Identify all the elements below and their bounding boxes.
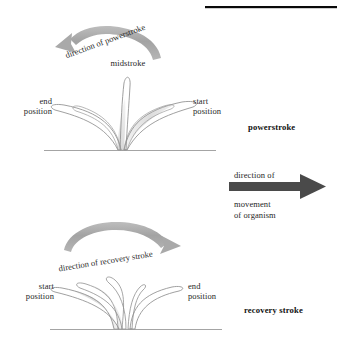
powerstroke-arc-label-text: direction of powerstroke <box>64 22 147 60</box>
organism-direction-label-line2: movement <box>234 199 271 209</box>
recovery-arc-label: direction of recovery stroke <box>58 248 228 278</box>
powerstroke-arc-label: direction of powerstroke <box>62 22 202 56</box>
recovery-cilium-third <box>106 277 126 329</box>
recovery-panel-title: recovery stroke <box>244 305 303 315</box>
recovery-cilium-start <box>51 287 119 329</box>
organism-direction-label-line3: of organism <box>234 210 276 220</box>
powerstroke-end-position-label: end position <box>4 96 52 116</box>
powerstroke-panel-title: powerstroke <box>248 122 295 132</box>
powerstroke-end-position-line1: end <box>39 96 52 106</box>
recovery-start-position-label: start position <box>2 281 54 301</box>
powerstroke-cilia-group <box>44 77 216 150</box>
powerstroke-start-position-label: start position <box>193 96 245 116</box>
powerstroke-cilium-start <box>124 101 196 150</box>
organism-direction-label-line1: direction of <box>234 170 275 180</box>
recovery-arc-label-text: direction of recovery stroke <box>58 249 154 274</box>
recovery-end-position-line1: end <box>188 281 201 291</box>
cilia-beat-cycle-figure: direction of powerstroke midstroke end p… <box>0 0 337 343</box>
powerstroke-end-position-line2: position <box>24 106 52 116</box>
recovery-shade-left <box>68 289 118 328</box>
recovery-start-position-line2: position <box>26 291 54 301</box>
top-black-rule <box>205 6 337 8</box>
midstroke-label: midstroke <box>98 58 158 68</box>
powerstroke-cilium-end <box>51 104 121 150</box>
powerstroke-start-position-line2: position <box>193 106 221 116</box>
recovery-end-position-line2: position <box>188 291 216 301</box>
recovery-cilium-end <box>130 286 183 329</box>
recovery-end-position-label: end position <box>188 281 240 301</box>
recovery-start-position-line1: start <box>39 281 54 291</box>
powerstroke-start-position-line1: start <box>193 96 208 106</box>
